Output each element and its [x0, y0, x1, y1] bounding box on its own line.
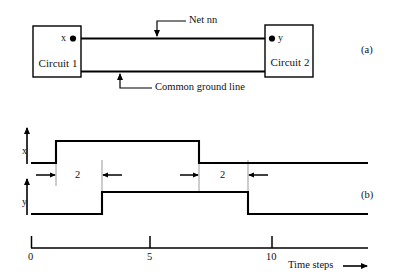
circuit-1-box — [33, 26, 81, 77]
time-tick-label-5: 5 — [147, 252, 152, 263]
panel-a-circuit-diagram — [33, 21, 313, 88]
circuit-2-label: Circuit 2 — [268, 57, 312, 68]
net-nn-leader-arrow — [157, 21, 186, 36]
panel-b-tag: (b) — [361, 190, 373, 201]
waveform-x — [31, 141, 368, 163]
circuit-2-box — [265, 25, 313, 77]
figure-container: Circuit 1 Circuit 2 x y Net nn Common gr… — [0, 0, 412, 278]
terminal-dot-y — [269, 35, 275, 41]
signal-label-x: x — [22, 146, 27, 156]
net-nn-label: Net nn — [189, 15, 217, 26]
time-axis-title: Time steps — [288, 260, 333, 271]
panel-a-tag: (a) — [361, 45, 373, 56]
common-ground-leader-arrow — [120, 74, 152, 88]
measurement-label-1: 2 — [75, 170, 80, 181]
measurement-label-2: 2 — [220, 170, 225, 181]
time-tick-label-0: 0 — [28, 252, 33, 263]
waveform-y — [31, 192, 368, 214]
terminal-label-y: y — [278, 33, 283, 43]
terminal-dot-x — [70, 35, 76, 41]
signal-label-y: y — [22, 197, 27, 207]
circuit-1-label: Circuit 1 — [36, 58, 80, 69]
time-tick-label-10: 10 — [266, 252, 277, 263]
panel-b-timing-diagram — [27, 128, 368, 266]
common-ground-line-label: Common ground line — [155, 82, 245, 93]
terminal-label-x: x — [61, 33, 66, 43]
